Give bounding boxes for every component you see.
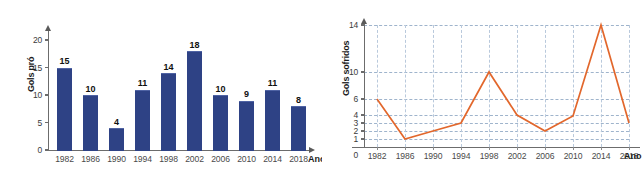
left-chart-xlabel-1990: 1990	[104, 154, 129, 164]
bar-1986[interactable]	[83, 95, 98, 151]
right-chart-xtick-2006	[545, 147, 546, 150]
right-chart-xlabel-1994: 1994	[448, 151, 474, 161]
bar-value-2002: 18	[182, 40, 207, 50]
left-chart-xlabel-2014: 2014	[260, 154, 285, 164]
bar-value-2006: 10	[208, 84, 233, 94]
right-chart-xlabel-2010: 2010	[560, 151, 586, 161]
figure-container: Gols pró 0 5 10 15 20 15 10 4 11	[0, 0, 644, 180]
right-chart-xtick-2010	[573, 147, 574, 150]
left-chart-ytick-10	[45, 94, 49, 95]
bar-value-1986: 10	[78, 84, 103, 94]
left-chart-ylabel-20: 20	[24, 35, 42, 45]
right-chart-xtick-2014	[601, 147, 602, 150]
left-chart-y-axis	[48, 31, 49, 151]
bar-1994[interactable]	[135, 90, 150, 152]
bar-2002[interactable]	[187, 51, 202, 151]
bar-chart-panel: Gols pró 0 5 10 15 20 15 10 4 11	[0, 0, 322, 180]
right-chart-xtick-2002	[517, 147, 518, 150]
left-chart-y-axis-arrow	[45, 25, 51, 31]
right-chart-xlabel-2014: 2014	[588, 151, 614, 161]
right-chart-xtick-1998	[489, 147, 490, 150]
right-chart-xtick-1994	[461, 147, 462, 150]
bar-2006[interactable]	[213, 95, 228, 151]
right-chart-xlabel-1982: 1982	[364, 151, 390, 161]
right-chart-xtick-1986	[405, 147, 406, 150]
left-chart-ytick-0	[45, 149, 49, 150]
bar-1990[interactable]	[109, 128, 124, 151]
bar-2010[interactable]	[239, 101, 254, 152]
right-chart-xtick-2018	[629, 147, 630, 150]
bar-value-2010: 9	[234, 89, 259, 99]
left-chart-ytick-20	[45, 39, 49, 40]
bar-value-2018: 8	[286, 95, 311, 105]
left-chart-xlabel-1986: 1986	[78, 154, 103, 164]
bar-2018[interactable]	[291, 106, 306, 151]
right-chart-xlabel-1998: 1998	[476, 151, 502, 161]
bar-1982[interactable]	[57, 68, 72, 152]
right-chart-xlabel-1986: 1986	[392, 151, 418, 161]
left-chart-xlabel-2006: 2006	[208, 154, 233, 164]
left-chart-x-axis-arrow	[309, 147, 315, 153]
left-chart-xlabel-2010: 2010	[234, 154, 259, 164]
left-chart-ylabel-10: 10	[24, 90, 42, 100]
bar-value-2014: 11	[260, 78, 285, 88]
left-chart-xlabel-2002: 2002	[182, 154, 207, 164]
left-chart-ytick-5	[45, 122, 49, 123]
left-chart-xlabel-1982: 1982	[52, 154, 77, 164]
right-chart-xlabel-1990: 1990	[420, 151, 446, 161]
right-chart-x-axis-title: Ano	[624, 151, 642, 161]
right-chart-xlabel-2006: 2006	[532, 151, 558, 161]
left-chart-ylabel-0: 0	[28, 145, 42, 155]
left-chart-ytick-15	[45, 67, 49, 68]
right-chart-xtick-1990	[433, 147, 434, 150]
left-chart-xlabel-1998: 1998	[156, 154, 181, 164]
left-chart-ylabel-5: 5	[28, 118, 42, 128]
bar-1998[interactable]	[161, 73, 176, 151]
right-chart-xlabel-2002: 2002	[504, 151, 530, 161]
bar-value-1990: 4	[104, 117, 129, 127]
left-chart-xlabel-1994: 1994	[130, 154, 155, 164]
bar-value-1994: 11	[130, 78, 155, 88]
left-chart-ylabel-15: 15	[24, 63, 42, 73]
line-chart-panel: Gols sofridos 14 10 6 4	[322, 0, 644, 180]
bar-value-1998: 14	[156, 62, 181, 72]
bar-value-1982: 15	[52, 56, 77, 66]
right-chart-xtick-1982	[377, 147, 378, 150]
bar-2014[interactable]	[265, 90, 280, 152]
